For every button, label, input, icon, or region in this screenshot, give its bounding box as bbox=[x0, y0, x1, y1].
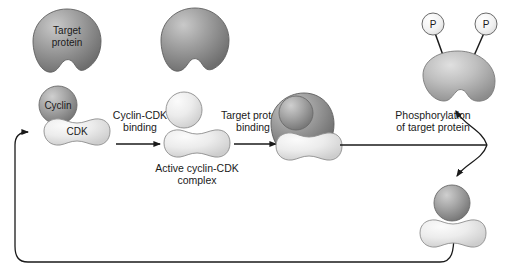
bound-cyclin-sphere bbox=[279, 96, 313, 130]
bound-cdk-body bbox=[276, 133, 342, 160]
bound-complex bbox=[271, 93, 342, 160]
released-cyclin-sphere bbox=[434, 185, 470, 221]
phosphorylated-protein-body bbox=[423, 51, 495, 101]
target-protein-top bbox=[161, 8, 229, 71]
step-phosphorylation: Phosphorylation of target protein bbox=[395, 109, 470, 133]
cell-cycle-diagram: Target protein Cyclin CDK Cyclin-CDK bin… bbox=[0, 0, 510, 277]
cdk-label: CDK bbox=[66, 126, 87, 137]
active-complex-caption-line1: Active cyclin-CDK bbox=[155, 162, 238, 174]
cyclin-cdk-binding-label-line1: Cyclin-CDK bbox=[113, 109, 167, 121]
cyclin-cdk-binding-label-line2: binding bbox=[123, 121, 157, 133]
diagram-canvas: Target protein Cyclin CDK Cyclin-CDK bin… bbox=[0, 0, 510, 277]
phosphate-label-2: P bbox=[483, 19, 490, 30]
step-cyclin-cdk-binding: Cyclin-CDK binding bbox=[113, 109, 167, 144]
cyclin-shape: Cyclin bbox=[39, 86, 77, 124]
recycle-arrow bbox=[15, 132, 454, 262]
phosphorylated-target-protein: P P bbox=[422, 13, 497, 101]
active-cyclin-cdk-complex: Active cyclin-CDK complex bbox=[155, 92, 238, 186]
target-binding-label-line2: binding bbox=[236, 121, 270, 133]
complex-cyclin-sphere bbox=[166, 92, 202, 128]
released-cyclin-cdk-complex bbox=[420, 185, 486, 247]
released-cdk-body bbox=[420, 220, 486, 247]
cdk-shape: CDK bbox=[44, 119, 110, 145]
active-complex-caption-line2: complex bbox=[177, 174, 217, 186]
cyclin-label: Cyclin bbox=[44, 100, 71, 111]
branch-down-arrow bbox=[457, 145, 487, 176]
phosphorylation-label-line2: of target protein bbox=[396, 121, 470, 133]
target-protein-left-label-line1: Target bbox=[53, 25, 81, 36]
target-protein-left-label-line2: protein bbox=[52, 37, 83, 48]
complex-cdk-body bbox=[164, 130, 230, 157]
target-protein-left: Target protein bbox=[33, 9, 101, 72]
phosphate-label-1: P bbox=[430, 19, 437, 30]
